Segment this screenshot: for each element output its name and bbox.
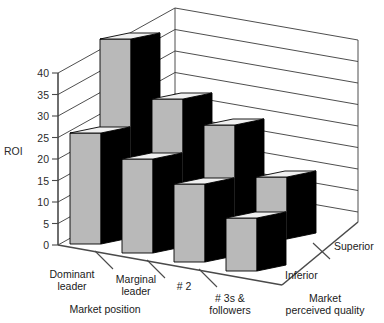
y-tick-label-35: 35 (37, 89, 49, 101)
x-cat-1-line2: leader (121, 285, 151, 297)
x-cat-1-line1: Marginal (116, 273, 156, 285)
chart-container: 40 35 30 25 20 15 10 5 0 ROI (0, 0, 384, 323)
x-axis-title: Market position (69, 303, 140, 315)
bar-inferior-number-2 (174, 178, 234, 262)
x-cat-0-line1: Dominant (50, 268, 95, 280)
bar-inferior-marginal-leader (122, 153, 182, 253)
z-axis-title-line2: perceived quality (286, 304, 366, 316)
back-wall-top-right-edge (175, 8, 358, 40)
z-axis-title-line1: Market (309, 292, 341, 304)
bar-inferior-dominant-leader (70, 127, 130, 244)
x-cat-0-line2: leader (57, 280, 87, 292)
y-tick-label-0: 0 (43, 239, 49, 251)
x-cat-3-line1: # 3s & (215, 292, 245, 304)
y-tick-label-15: 15 (37, 175, 49, 187)
x-cat-3-line2: followers (209, 304, 250, 316)
y-axis-ticks: 40 35 30 25 20 15 10 5 0 (37, 67, 58, 251)
y-tick-label-10: 10 (37, 196, 49, 208)
bar-inferior-number-3s-followers (226, 212, 286, 271)
x-cat-2-line1: # 2 (177, 280, 192, 292)
y-tick-label-25: 25 (37, 132, 49, 144)
roi-3d-bar-chart: 40 35 30 25 20 15 10 5 0 ROI (0, 0, 384, 323)
z-cat-superior: Superior (334, 240, 374, 252)
y-axis-title: ROI (4, 145, 23, 157)
y-tick-label-5: 5 (43, 218, 49, 230)
z-cat-inferior: Inferior (285, 269, 318, 281)
y-tick-label-40: 40 (37, 67, 49, 79)
y-tick-label-20: 20 (37, 153, 49, 165)
y-tick-label-30: 30 (37, 110, 49, 122)
